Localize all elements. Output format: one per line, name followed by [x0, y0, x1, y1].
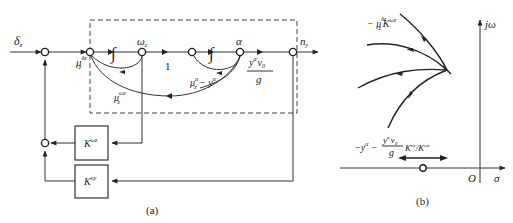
node-intermediate [188, 48, 195, 55]
zero-marker [420, 165, 426, 171]
arrow-marker [162, 49, 168, 55]
locus-branch-2 [367, 44, 447, 70]
unity-gain-label: 1 [165, 60, 171, 72]
integrator-omega-symbol: ∫ [110, 44, 117, 64]
mu-alpha-label: μαz − yα [189, 76, 217, 90]
arrow-marker [257, 49, 263, 55]
node-omega [138, 48, 145, 55]
label-bottom-gain-ratio: Kny/Kωz [404, 143, 430, 153]
output-label: ny [300, 35, 309, 48]
omega-label: ωz [137, 35, 148, 48]
arrow-marker [119, 70, 125, 74]
feedback-mu-omega-inner [92, 56, 142, 68]
label-bottom-prefix: −yα − [354, 141, 378, 153]
mu-omega-label: μωzz [113, 90, 126, 105]
box-ny-to-sum [45, 151, 75, 181]
signal-flow-graph: ∫ ∫ δz μδzz ωz 1 [10, 20, 318, 217]
summing-node-feedback [41, 139, 48, 146]
gain-box-omega [75, 126, 108, 160]
gain-denominator: g [256, 73, 262, 85]
node-output [289, 48, 296, 55]
arrow-marker [166, 93, 172, 99]
arrow-right [440, 155, 448, 161]
imag-axis-label: jω [483, 18, 496, 30]
real-axis-label: σ [494, 172, 500, 184]
integrator-alpha-symbol: ∫ [208, 44, 215, 64]
gain-fraction: yαv0 g [247, 56, 273, 85]
caption-a: (a) [146, 204, 159, 217]
airframe-dashed-box [90, 20, 297, 113]
caption-b: (b) [416, 195, 429, 208]
gain-box-ny [75, 165, 108, 198]
origin-label: O [468, 172, 476, 184]
mu-delta-label: μδzz [75, 55, 87, 70]
label-bottom-denominator: g [389, 147, 394, 158]
locus-label-top: − μδzzKωz [367, 16, 397, 31]
node-alpha [236, 48, 243, 55]
locus-arrow [406, 48, 414, 52]
locus-branch-4 [388, 70, 447, 128]
figure-canvas: ∫ ∫ δz μδzz ωz 1 [0, 0, 513, 223]
root-locus-plot: jω σ O − μδzzKωz −yα − yαv0 g Kny/Kωz [340, 14, 505, 208]
summing-node-input [41, 48, 48, 55]
locus-label-bottom: −yα − yαv0 g Kny/Kωz [354, 135, 430, 158]
locus-branch-1 [400, 14, 447, 70]
arrow-left [398, 155, 406, 161]
alpha-label: α [236, 35, 242, 47]
node-mu [86, 48, 93, 55]
input-label: δz [14, 34, 23, 49]
gain-numerator: yαv0 [248, 56, 265, 69]
label-bottom-numerator: yαv0 [382, 135, 398, 146]
arrow-marker [216, 71, 222, 75]
